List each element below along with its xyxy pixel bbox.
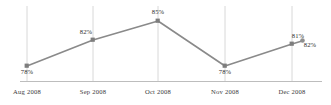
x-tick-label-aug: Aug 2008 [13, 88, 41, 95]
series-line [27, 21, 292, 66]
line-chart: 78% 82% 85% 78% 81% 82% Aug 2008 Sep 200… [0, 0, 331, 105]
marker-oct [156, 19, 160, 23]
data-label-sep: 82% [80, 28, 92, 35]
x-tick-label-oct: Oct 2008 [145, 88, 171, 95]
data-label-aug: 78% [21, 68, 33, 75]
gridlines [27, 6, 292, 81]
data-label-dec-secondary: 82% [304, 41, 316, 48]
x-tick-label-dec: Dec 2008 [278, 88, 305, 95]
data-label-dec: 81% [292, 32, 304, 39]
data-label-oct: 85% [152, 8, 164, 15]
x-tick-label-sep: Sep 2008 [80, 88, 106, 95]
marker-sep [91, 38, 95, 42]
x-tick-label-nov: Nov 2008 [211, 88, 239, 95]
marker-dec [290, 42, 294, 46]
data-label-nov: 78% [219, 68, 231, 75]
